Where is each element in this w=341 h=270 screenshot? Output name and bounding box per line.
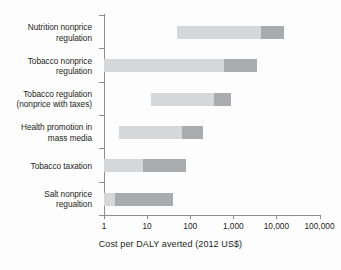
category-label-line: Tobacco nonprice xyxy=(0,56,92,66)
x-axis-tick-label: 100 xyxy=(183,221,197,231)
x-axis-tick-label: 1,000 xyxy=(223,221,244,231)
bar-segment-light xyxy=(104,193,115,206)
category-label-line: mass media xyxy=(0,133,92,143)
range-bar xyxy=(104,193,173,206)
x-axis-tick xyxy=(104,215,105,219)
bar-segment-light xyxy=(104,59,224,72)
x-axis-tick xyxy=(320,215,321,219)
range-bar xyxy=(104,59,257,72)
bar-segment-dark xyxy=(261,26,284,39)
category-label-line: Tobacco regulation xyxy=(0,89,92,99)
category-label: Health promotion inmass media xyxy=(0,122,92,143)
x-axis-tick-label: 100,000 xyxy=(305,221,335,231)
x-axis-title: Cost per DALY averted (2012 US$) xyxy=(0,239,341,249)
bar-segment-light xyxy=(151,93,214,106)
x-axis-tick-label: 10 xyxy=(142,221,151,231)
range-bar xyxy=(119,126,203,139)
y-axis-tick xyxy=(99,48,104,49)
y-axis-tick xyxy=(99,115,104,116)
y-axis-line xyxy=(104,14,105,215)
category-label: Tobacco taxation xyxy=(0,161,92,171)
x-axis-tick-label: 10,000 xyxy=(264,221,289,231)
category-label: Salt nonpriceregualtion xyxy=(0,189,92,210)
y-axis-tick xyxy=(99,148,104,149)
bar-segment-light xyxy=(119,126,182,139)
bar-segment-light xyxy=(177,26,261,39)
bar-segment-dark xyxy=(143,159,186,172)
x-axis-line xyxy=(104,215,320,216)
category-label-line: (nonprice with taxes) xyxy=(0,99,92,109)
category-label: Tobacco regulation(nonprice with taxes) xyxy=(0,89,92,110)
y-axis-tick xyxy=(99,15,104,16)
category-label-line: Nutrition nonprice xyxy=(0,22,92,32)
category-label-line: Health promotion in xyxy=(0,122,92,132)
category-label: Nutrition nonpriceregulation xyxy=(0,22,92,43)
bar-segment-dark xyxy=(224,59,257,72)
bar-segment-dark xyxy=(182,126,203,139)
x-axis-tick xyxy=(233,215,234,219)
category-label-line: regualtion xyxy=(0,199,92,209)
range-bar xyxy=(151,93,232,106)
bar-segment-dark xyxy=(115,193,173,206)
category-label-line: regulation xyxy=(0,33,92,43)
category-label-line: Tobacco taxation xyxy=(0,161,92,171)
range-bar xyxy=(104,159,186,172)
x-axis-tick xyxy=(190,215,191,219)
chart-figure: Nutrition nonpriceregulationTobacco nonp… xyxy=(0,0,341,270)
bar-segment-light xyxy=(104,159,143,172)
range-bar xyxy=(177,26,284,39)
category-label-line: regulation xyxy=(0,66,92,76)
x-axis-tick xyxy=(147,215,148,219)
y-axis-tick xyxy=(99,82,104,83)
bar-segment-dark xyxy=(214,93,232,106)
category-label-line: Salt nonprice xyxy=(0,189,92,199)
y-axis-tick xyxy=(99,182,104,183)
x-axis-tick-label: 1 xyxy=(102,221,107,231)
x-axis-tick xyxy=(276,215,277,219)
category-label: Tobacco nonpriceregulation xyxy=(0,56,92,77)
